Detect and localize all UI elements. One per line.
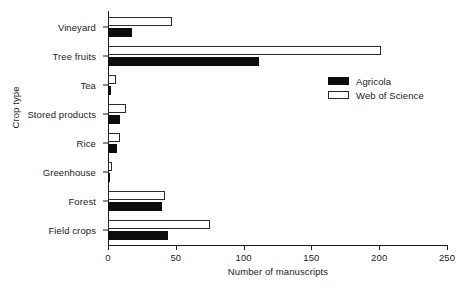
bar-agricola <box>108 57 259 66</box>
legend-swatch-icon <box>328 77 349 85</box>
y-axis-category-label: Tea <box>80 79 96 90</box>
bar-agricola <box>108 86 111 95</box>
bar-agricola <box>108 28 132 37</box>
x-axis-tick <box>244 245 245 250</box>
bar-agricola <box>108 144 117 153</box>
x-axis-tick-label: 250 <box>427 252 466 263</box>
legend-swatch-icon <box>328 91 349 99</box>
legend-label: Web of Science <box>356 90 424 101</box>
bar-web-of-science <box>108 46 381 55</box>
bar-web-of-science <box>108 104 126 113</box>
bar-web-of-science <box>108 191 165 200</box>
y-axis-category-label: Forest <box>68 196 96 207</box>
y-axis-category-label: Greenhouse <box>43 167 96 178</box>
legend-item: Web of Science <box>328 89 458 101</box>
x-axis-tick-label: 150 <box>291 252 331 263</box>
bar-web-of-science <box>108 220 210 229</box>
y-axis-category-label: Rice <box>77 138 96 149</box>
x-axis-tick <box>176 245 177 250</box>
bar-web-of-science <box>108 17 172 26</box>
x-axis-tick <box>447 245 448 250</box>
x-axis-tick-label: 0 <box>88 252 128 263</box>
y-axis-category-labels: VineyardTree fruitsTeaStored productsRic… <box>0 0 104 290</box>
bar-agricola <box>108 231 168 240</box>
y-axis-category-label: Vineyard <box>58 21 96 32</box>
bar-chart-figure: Crop type VineyardTree fruitsTeaStored p… <box>0 0 466 290</box>
bar-web-of-science <box>108 133 120 142</box>
bar-agricola <box>108 173 110 182</box>
legend-item: Agricola <box>328 75 458 87</box>
x-axis-line <box>108 245 448 246</box>
x-axis-tick-label: 50 <box>156 252 196 263</box>
x-axis-tick-label: 100 <box>224 252 264 263</box>
x-axis-tick <box>108 245 109 250</box>
x-axis-tick <box>379 245 380 250</box>
y-axis-category-label: Tree fruits <box>52 50 96 61</box>
x-axis-tick <box>311 245 312 250</box>
y-axis-category-label: Stored products <box>27 108 96 119</box>
plot-area <box>108 12 447 245</box>
bar-web-of-science <box>108 75 116 84</box>
bar-agricola <box>108 202 162 211</box>
bar-web-of-science <box>108 162 112 171</box>
x-axis-tick-label: 200 <box>359 252 399 263</box>
legend-label: Agricola <box>356 76 391 87</box>
bar-agricola <box>108 115 120 124</box>
chart-legend: AgricolaWeb of Science <box>328 75 458 103</box>
y-axis-category-label: Field crops <box>48 225 96 236</box>
x-axis-title: Number of manuscripts <box>108 266 448 277</box>
